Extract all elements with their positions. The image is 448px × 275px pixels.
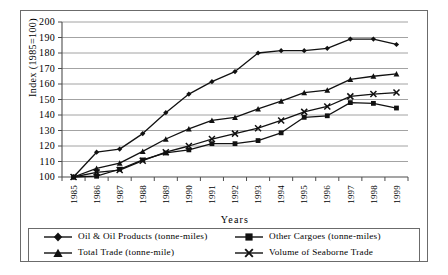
x-tick-labels: 1985198619871988198919901991199219931994… — [69, 185, 402, 204]
svg-text:150: 150 — [39, 94, 55, 105]
chart-figure: 100110120130140150160170180190200 198519… — [0, 0, 448, 275]
legend: Oil & Oil Products (tonne-miles) Other C… — [28, 228, 420, 262]
svg-text:1993: 1993 — [253, 185, 263, 204]
svg-text:190: 190 — [39, 32, 55, 43]
legend-label: Volume of Seaborne Trade — [269, 248, 373, 257]
svg-text:110: 110 — [39, 156, 55, 167]
legend-label: Total Trade (tonne-mile) — [78, 248, 174, 257]
svg-text:140: 140 — [39, 109, 55, 120]
legend-label: Oil & Oil Products (tonne-miles) — [78, 232, 207, 241]
x-axis-ticks — [62, 177, 408, 181]
legend-item-other-cargoes: Other Cargoes (tonne-miles) — [224, 229, 419, 245]
svg-text:1998: 1998 — [369, 185, 379, 204]
svg-text:120: 120 — [39, 140, 55, 151]
svg-text:1986: 1986 — [92, 185, 102, 204]
svg-text:1991: 1991 — [207, 185, 217, 204]
svg-text:1992: 1992 — [230, 185, 240, 204]
svg-text:1999: 1999 — [392, 185, 402, 204]
svg-text:130: 130 — [39, 125, 55, 136]
gridlines — [62, 22, 408, 162]
legend-item-oil-oil-products: Oil & Oil Products (tonne-miles) — [29, 229, 224, 245]
series-lines — [74, 39, 397, 177]
y-axis-ticks: 100110120130140150160170180190200 — [39, 16, 62, 182]
svg-text:1995: 1995 — [299, 185, 309, 204]
y-axis-title: Index (1985=100) — [27, 0, 38, 128]
square-marker-icon — [234, 231, 264, 243]
series-markers — [71, 36, 400, 180]
legend-label: Other Cargoes (tonne-miles) — [269, 232, 381, 241]
svg-text:1988: 1988 — [138, 185, 148, 204]
svg-text:1990: 1990 — [184, 185, 194, 204]
svg-text:170: 170 — [39, 63, 55, 74]
svg-text:100: 100 — [39, 171, 55, 182]
legend-item-volume-seaborne-trade: Volume of Seaborne Trade — [224, 245, 419, 261]
svg-text:1985: 1985 — [69, 185, 79, 204]
cross-marker-icon — [234, 247, 264, 259]
svg-text:1987: 1987 — [115, 185, 125, 204]
legend-item-total-trade: Total Trade (tonne-mile) — [29, 245, 224, 261]
svg-text:1989: 1989 — [161, 185, 171, 204]
svg-text:1996: 1996 — [322, 185, 332, 204]
legend-grid: Oil & Oil Products (tonne-miles) Other C… — [29, 229, 419, 261]
triangle-marker-icon — [43, 247, 73, 259]
svg-text:160: 160 — [39, 78, 55, 89]
x-axis-title: Years — [62, 214, 408, 225]
svg-text:1994: 1994 — [276, 185, 286, 204]
svg-text:1997: 1997 — [346, 185, 356, 204]
svg-text:200: 200 — [39, 16, 55, 27]
diamond-marker-icon — [43, 231, 73, 243]
svg-text:180: 180 — [39, 47, 55, 58]
